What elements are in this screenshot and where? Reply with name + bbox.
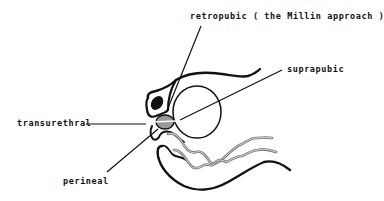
urethra-line — [150, 121, 178, 122]
perineal-leader-line — [107, 129, 158, 172]
abdominal-wall-outline — [148, 69, 260, 98]
retropubic-leader-line — [166, 26, 201, 113]
suprapubic-leader-line — [180, 70, 282, 120]
label-perineal: perineal — [63, 176, 109, 186]
label-transurethral: transurethral — [17, 118, 91, 128]
rectum-outline — [158, 146, 290, 189]
pubic-bone — [148, 94, 166, 113]
label-retropubic: retropubic ( the Millin approach ) — [190, 11, 384, 21]
label-suprapubic: suprapubic — [287, 64, 344, 74]
